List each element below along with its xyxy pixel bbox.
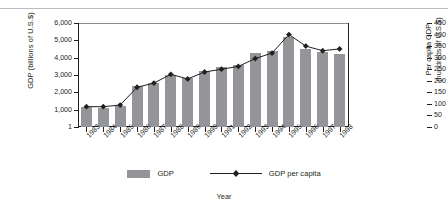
chart-figure: GDP (billions of U.S.$) Per capita GDP (…: [0, 0, 448, 209]
y-tick-label-left-6,000: 6,000: [54, 19, 72, 27]
plot-area: 11,0002,0003,0004,0005,0006,000050100150…: [78, 23, 348, 127]
line-marker-1996: [303, 43, 309, 49]
y-tick-label-right-350: 350: [434, 42, 446, 50]
y-tick-label-right-100: 100: [434, 100, 446, 108]
y-tick-label-left-4,000: 4,000: [54, 54, 72, 62]
y-tick-left-5,000: [74, 40, 79, 41]
line-marker-1993: [252, 56, 258, 62]
y-tick-label-right-450: 450: [434, 19, 446, 27]
y-tick-right-0: [427, 127, 432, 128]
y-tick-label-right-400: 400: [434, 31, 446, 39]
line-marker-1998: [337, 46, 343, 52]
y-tick-left-1,000: [74, 110, 79, 111]
line-marker-1987: [151, 80, 157, 86]
y-tick-right-50: [427, 115, 432, 116]
y-axis-right-title-line1: Per capita GDP: [424, 24, 433, 75]
legend-bar-swatch-icon: [127, 170, 150, 178]
y-tick-right-150: [427, 92, 432, 93]
legend-label-gdp: GDP: [157, 169, 173, 178]
y-tick-right-450: [427, 23, 432, 24]
line-path: [86, 35, 339, 107]
y-tick-label-right-0: 0: [434, 123, 438, 131]
y-tick-label-right-200: 200: [434, 77, 446, 85]
y-tick-label-left-3,000: 3,000: [54, 71, 72, 79]
y-tick-left-2,000: [74, 92, 79, 93]
legend-label-gdp-per-capita: GDP per capita: [269, 169, 321, 178]
y-tick-label-right-250: 250: [434, 65, 446, 73]
y-axis-right-line: [348, 23, 349, 127]
y-tick-right-350: [427, 46, 432, 47]
legend-item-gdp: GDP: [127, 169, 173, 178]
chart-legend: GDP GDP per capita: [0, 169, 448, 178]
y-tick-label-left-1: 1: [68, 123, 72, 131]
y-tick-label-left-2,000: 2,000: [54, 88, 72, 96]
y-tick-label-left-1,000: 1,000: [54, 106, 72, 114]
line-series: [78, 23, 348, 127]
y-tick-label-right-150: 150: [434, 88, 446, 96]
line-marker-1992: [235, 64, 241, 70]
line-marker-1989: [185, 76, 191, 82]
y-tick-left-4,000: [74, 58, 79, 59]
y-tick-left-6,000: [74, 23, 79, 24]
line-marker-1991: [219, 66, 225, 72]
y-tick-label-left-5,000: 5,000: [54, 36, 72, 44]
y-tick-right-200: [427, 81, 432, 82]
line-marker-1984: [100, 104, 106, 110]
y-tick-label-right-50: 50: [434, 111, 442, 119]
y-tick-right-300: [427, 58, 432, 59]
y-tick-right-400: [427, 35, 432, 36]
y-tick-left-3,000: [74, 75, 79, 76]
line-marker-1990: [202, 69, 208, 75]
y-tick-right-100: [427, 104, 432, 105]
top-divider-rule: [0, 8, 448, 9]
y-tick-left-1: [74, 127, 79, 128]
y-tick-label-right-300: 300: [434, 54, 446, 62]
legend-item-gdp-per-capita: GDP per capita: [210, 169, 321, 178]
line-marker-1997: [320, 48, 326, 54]
y-tick-right-250: [427, 69, 432, 70]
x-axis-title: Year: [0, 192, 448, 201]
line-marker-1988: [168, 71, 174, 77]
line-marker-1983: [84, 104, 90, 110]
y-axis-left-title: GDP (billions of U.S.$): [26, 0, 35, 111]
legend-line-diamond-icon: [210, 169, 262, 178]
